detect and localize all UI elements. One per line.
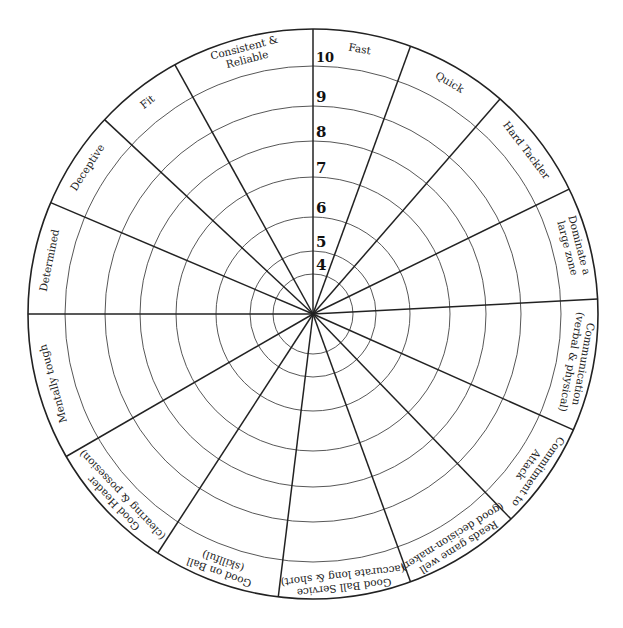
scale-number: 8 [316, 123, 326, 141]
wheel-diagram: FastQuickHard TacklerDominate alarge zon… [0, 0, 623, 628]
scale-number: 9 [316, 88, 326, 106]
scale-number: 6 [316, 199, 326, 217]
scale-number: 4 [316, 256, 326, 274]
scale-number: 5 [316, 233, 326, 251]
scale-number: 10 [316, 50, 334, 65]
attribute-wheel: FastQuickHard TacklerDominate alarge zon… [0, 0, 623, 628]
scale-number: 7 [316, 159, 326, 177]
